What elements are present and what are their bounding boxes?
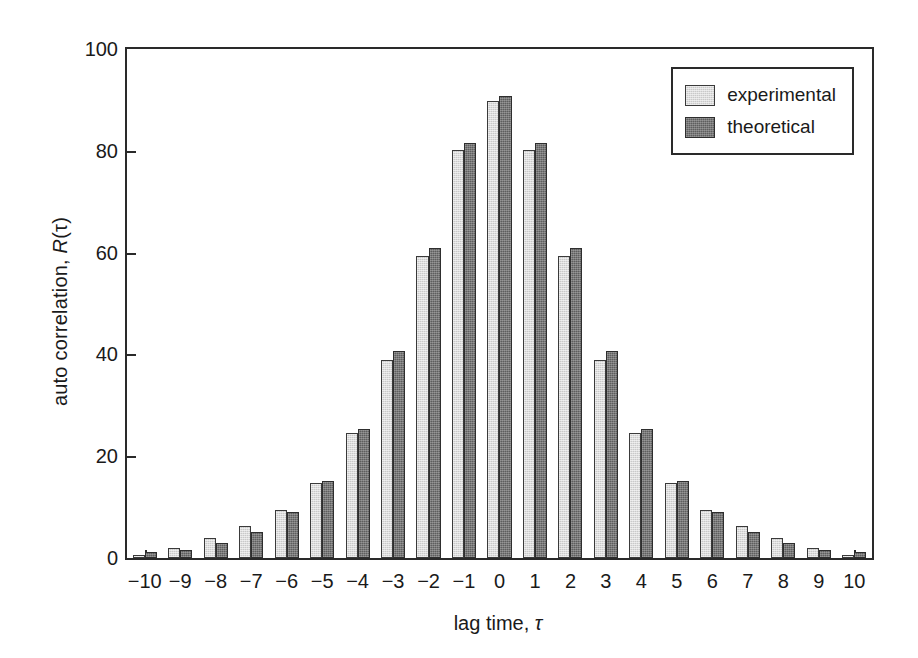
bar-theoretical — [145, 552, 157, 558]
x-tick-label: 0 — [494, 570, 505, 593]
bar-group — [416, 49, 440, 558]
bar-theoretical — [570, 248, 582, 558]
bar-group — [168, 49, 192, 558]
bar-theoretical — [393, 351, 405, 558]
y-axis-title-symbol: R — [49, 239, 71, 254]
bar-theoretical — [783, 543, 795, 558]
y-tick-label: 20 — [96, 445, 118, 468]
bar-experimental — [842, 555, 854, 558]
bar-experimental — [807, 548, 819, 558]
bar-theoretical — [641, 429, 653, 558]
x-tick-label: 10 — [843, 570, 865, 593]
bar-experimental — [771, 538, 783, 558]
x-tick-label: −1 — [453, 570, 476, 593]
x-tick-label: 5 — [671, 570, 682, 593]
legend-item-experimental: experimental — [685, 79, 836, 111]
bar-theoretical — [180, 550, 192, 558]
bar-group — [487, 49, 511, 558]
bar-theoretical — [216, 543, 228, 558]
bar-experimental — [239, 526, 251, 558]
bar-experimental — [168, 548, 180, 558]
bar-group — [558, 49, 582, 558]
bar-theoretical — [535, 143, 547, 558]
x-tick-label: 4 — [636, 570, 647, 593]
experimental-swatch-icon — [685, 85, 715, 106]
y-tick-label: 100 — [85, 38, 118, 61]
x-tick-label: 1 — [529, 570, 540, 593]
bar-experimental — [346, 433, 358, 558]
x-tick-label: −3 — [382, 570, 405, 593]
bar-group — [239, 49, 263, 558]
x-tick-label: 6 — [707, 570, 718, 593]
bar-theoretical — [429, 248, 441, 558]
bar-theoretical — [464, 143, 476, 558]
x-axis-title-symbol: τ — [535, 612, 542, 634]
y-axis-title: auto correlation, R(τ) — [49, 102, 72, 522]
bar-group — [133, 49, 157, 558]
bar-experimental — [204, 538, 216, 558]
bar-experimental — [133, 555, 145, 558]
x-tick-label: −6 — [275, 570, 298, 593]
bar-theoretical — [819, 550, 831, 558]
y-tick-label: 60 — [96, 241, 118, 264]
x-tick-label: −8 — [204, 570, 227, 593]
bar-experimental — [736, 526, 748, 558]
bar-theoretical — [677, 481, 689, 558]
legend: experimental theoretical — [671, 67, 854, 155]
x-tick-label: 9 — [813, 570, 824, 593]
y-tick-label: 80 — [96, 139, 118, 162]
x-axis-title-prefix: lag time, — [454, 612, 535, 634]
x-tick-label: −9 — [169, 570, 192, 593]
bar-experimental — [452, 150, 464, 558]
chart-figure: auto correlation, R(τ) lag time, τ 02040… — [0, 0, 918, 658]
legend-item-theoretical: theoretical — [685, 111, 836, 143]
bar-group — [523, 49, 547, 558]
bar-experimental — [700, 510, 712, 558]
legend-label-experimental: experimental — [727, 84, 836, 106]
bar-experimental — [665, 483, 677, 558]
x-tick-label: −2 — [417, 570, 440, 593]
bar-experimental — [558, 256, 570, 558]
bar-theoretical — [854, 552, 866, 558]
y-tick-label: 40 — [96, 343, 118, 366]
bar-experimental — [275, 510, 287, 558]
bar-theoretical — [322, 481, 334, 558]
y-tick-label: 0 — [107, 547, 118, 570]
legend-label-theoretical: theoretical — [727, 116, 815, 138]
bar-experimental — [629, 433, 641, 558]
x-tick-label: 3 — [600, 570, 611, 593]
bar-experimental — [416, 256, 428, 558]
y-axis-title-prefix: auto correlation, — [49, 253, 71, 406]
x-tick-label: 7 — [742, 570, 753, 593]
bar-group — [310, 49, 334, 558]
x-tick-label: 2 — [565, 570, 576, 593]
theoretical-swatch-icon — [685, 117, 715, 138]
bar-theoretical — [712, 512, 724, 558]
bar-experimental — [523, 150, 535, 558]
bar-theoretical — [287, 512, 299, 558]
bar-theoretical — [251, 532, 263, 558]
bar-theoretical — [499, 96, 511, 558]
bar-experimental — [594, 360, 606, 559]
bar-group — [204, 49, 228, 558]
x-axis-title: lag time, τ — [120, 612, 876, 635]
bar-group — [275, 49, 299, 558]
bar-theoretical — [606, 351, 618, 558]
bar-theoretical — [748, 532, 760, 558]
x-tick-label: −5 — [311, 570, 334, 593]
bar-theoretical — [358, 429, 370, 558]
bar-group — [346, 49, 370, 558]
plot-area: 020406080100 −10−9−8−7−6−5−4−3−2−1012345… — [125, 47, 874, 560]
bar-group — [381, 49, 405, 558]
x-tick-label: 8 — [778, 570, 789, 593]
x-tick-label: −10 — [128, 570, 162, 593]
bar-experimental — [381, 360, 393, 559]
bar-group — [594, 49, 618, 558]
x-tick-label: −7 — [240, 570, 263, 593]
bar-experimental — [310, 483, 322, 558]
bar-experimental — [487, 101, 499, 558]
y-axis-title-suffix: (τ) — [49, 217, 71, 239]
x-tick-label: −4 — [346, 570, 369, 593]
bar-group — [452, 49, 476, 558]
bar-group — [629, 49, 653, 558]
